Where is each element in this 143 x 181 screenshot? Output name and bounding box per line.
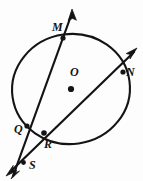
- point-label-r: R: [44, 138, 52, 150]
- point-label-m: M: [52, 21, 63, 33]
- point-label-n: N: [126, 66, 135, 78]
- point-dot-r: [41, 130, 47, 136]
- point-dot-s: [21, 160, 26, 165]
- geometry-figure: M N O Q R S: [0, 0, 143, 181]
- point-label-s: S: [29, 159, 36, 171]
- point-dot-m: [60, 35, 65, 40]
- point-label-o: O: [70, 66, 79, 78]
- geometry-canvas: [0, 0, 143, 181]
- center-dot-o: [68, 86, 74, 92]
- arrow-head-up-icon: [68, 9, 76, 21]
- point-dot-n: [120, 69, 125, 74]
- point-label-q: Q: [14, 123, 23, 135]
- point-dot-q: [24, 123, 29, 128]
